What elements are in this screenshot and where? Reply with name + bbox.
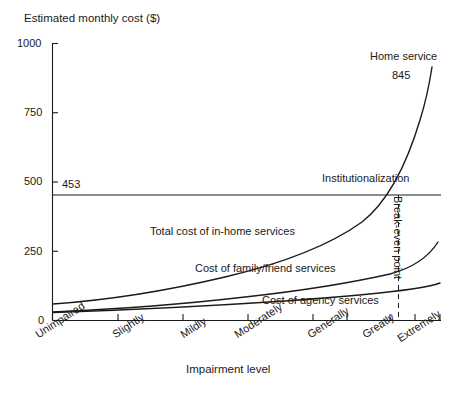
series-label-total-in-home: Total cost of in-home services bbox=[150, 225, 295, 237]
break-even-label: Break-even point bbox=[392, 196, 404, 279]
chart-figure: Estimated monthly cost ($) Impairment le… bbox=[0, 0, 467, 395]
y-tick-label-500: 500 bbox=[24, 175, 42, 187]
series-family-friend-curve bbox=[53, 242, 438, 312]
y-tick-label-750: 750 bbox=[24, 106, 42, 118]
series-label-agency: Cost of agency services bbox=[262, 294, 379, 306]
institutionalization-value: 453 bbox=[62, 178, 80, 190]
home-service-value: 845 bbox=[392, 69, 410, 81]
x-axis-title: Impairment level bbox=[186, 363, 270, 375]
institutionalization-label: Institutionalization bbox=[322, 172, 409, 184]
y-tick-label-250: 250 bbox=[24, 245, 42, 257]
home-service-label: Home service bbox=[370, 50, 437, 62]
y-tick-marks bbox=[53, 44, 59, 321]
y-tick-label-1000: 1000 bbox=[17, 37, 41, 49]
y-axis-title: Estimated monthly cost ($) bbox=[24, 12, 160, 24]
series-label-family-friend: Cost of family/friend services bbox=[195, 262, 336, 274]
